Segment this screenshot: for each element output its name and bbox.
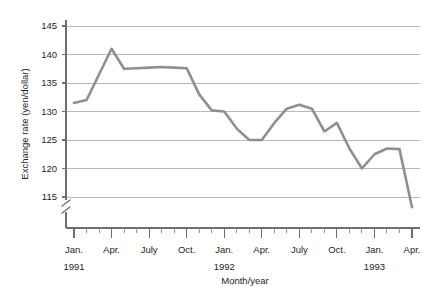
x-axis-year-label: 1992 [214, 261, 235, 272]
y-axis-break-icon [62, 200, 70, 213]
chart-canvas: 115120125130135140145 Jan.Apr.JulyOct.Ja… [0, 0, 444, 300]
x-axis-tick-label: July [141, 244, 158, 255]
x-axis-tick-label: Apr. [404, 244, 421, 255]
y-axis-tick-label: 145 [41, 20, 57, 31]
x-axis-tick-label: Jan. [365, 244, 383, 255]
gridlines-group [66, 26, 420, 197]
x-axis-title: Month/year [221, 275, 269, 286]
x-axis-year-label: 1993 [364, 261, 385, 272]
y-axis-title: Exchange rate (yen/dollar) [19, 68, 30, 179]
x-axis-year-labels-group: 199119921993 [63, 261, 385, 272]
x-axis-major-ticks-group [74, 228, 412, 238]
x-axis-tick-label: Jan. [65, 244, 83, 255]
x-axis-tick-label: Jan. [215, 244, 233, 255]
x-axis-tick-label: Oct. [328, 244, 345, 255]
y-axis-tick-labels-group: 115120125130135140145 [41, 20, 57, 202]
y-axis-tick-label: 130 [41, 106, 57, 117]
x-axis-year-label: 1991 [63, 261, 84, 272]
y-axis-tick-label: 120 [41, 163, 57, 174]
y-axis-tick-label: 140 [41, 49, 57, 60]
x-axis-tick-label: Apr. [103, 244, 120, 255]
x-axis-tick-label: July [291, 244, 308, 255]
exchange-rate-line-chart: 115120125130135140145 Jan.Apr.JulyOct.Ja… [0, 0, 444, 300]
x-axis-tick-label: Oct. [178, 244, 195, 255]
exchange-rate-series-line [74, 49, 412, 207]
y-axis-tick-label: 135 [41, 77, 57, 88]
x-axis-minor-ticks-group [87, 228, 400, 233]
y-axis-tick-label: 115 [42, 191, 57, 202]
y-axis-tick-label: 125 [41, 134, 57, 145]
x-axis-tick-labels-group: Jan.Apr.JulyOct.Jan.Apr.JulyOct.Jan.Apr. [65, 244, 420, 255]
x-axis-tick-label: Apr. [253, 244, 270, 255]
